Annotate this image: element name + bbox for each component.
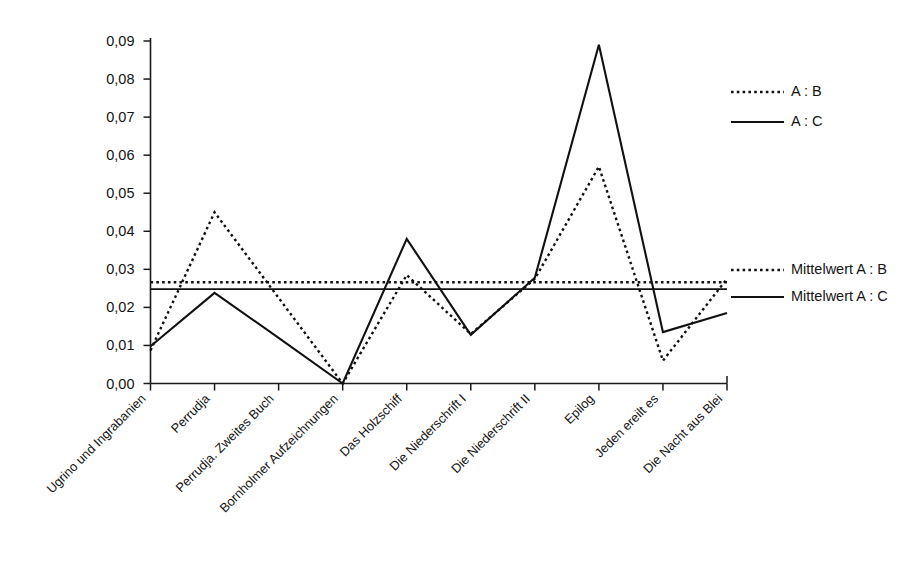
y-tick-label: 0,06	[106, 147, 134, 163]
y-tick-label: 0,05	[106, 185, 134, 201]
line-chart: 0,090,080,070,060,050,040,030,020,010,00…	[0, 0, 923, 578]
legend-label: Mittelwert A : B	[791, 261, 887, 277]
legend-label: Mittelwert A : C	[791, 288, 888, 304]
legend-label: A : C	[791, 113, 822, 129]
legend-label: A : B	[791, 83, 822, 99]
y-tick-label: 0,04	[106, 223, 134, 239]
y-tick-label: 0,00	[106, 376, 134, 392]
y-tick-label: 0,02	[106, 299, 134, 315]
y-tick-label: 0,01	[106, 337, 134, 353]
chart-canvas: 0,090,080,070,060,050,040,030,020,010,00…	[0, 0, 923, 578]
y-tick-label: 0,08	[106, 71, 134, 87]
y-tick-label: 0,03	[106, 261, 134, 277]
y-tick-label: 0,07	[106, 109, 134, 125]
y-tick-label: 0,09	[106, 33, 134, 49]
